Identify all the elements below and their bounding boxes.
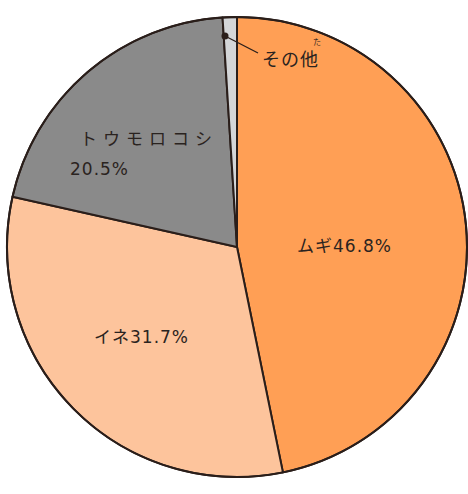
label-other-ruby: た (313, 36, 322, 47)
label-corn-name: トウモロコシ (80, 125, 218, 150)
pie-slices (7, 17, 467, 477)
label-other: その他 (262, 45, 319, 71)
label-corn-value: 20.5% (70, 159, 129, 179)
pie-chart (0, 0, 468, 494)
label-wheat: ムギ46.8% (297, 232, 392, 257)
label-rice: イネ31.7% (94, 323, 189, 348)
other-leader-dot (222, 33, 229, 40)
